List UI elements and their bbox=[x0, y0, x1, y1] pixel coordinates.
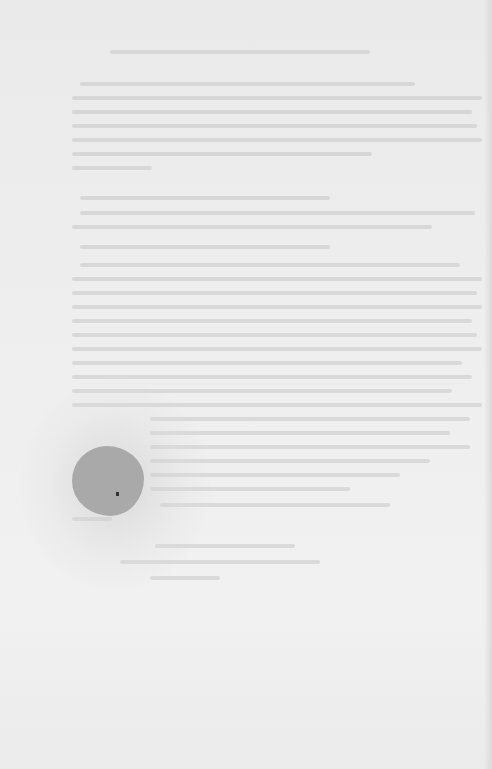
faded-text-line bbox=[110, 50, 370, 54]
faded-text-line bbox=[72, 96, 482, 100]
ink-blot bbox=[72, 446, 144, 516]
faded-text-line bbox=[80, 245, 330, 249]
faded-text-line bbox=[72, 291, 477, 295]
faded-text-line bbox=[72, 152, 372, 156]
faded-text-line bbox=[72, 110, 472, 114]
faded-text-line bbox=[150, 417, 470, 421]
faded-text-line bbox=[72, 225, 432, 229]
faded-text-line bbox=[72, 375, 472, 379]
faded-text-line bbox=[80, 82, 415, 86]
faded-text-line bbox=[72, 166, 152, 170]
faded-text-line bbox=[80, 211, 475, 215]
document-page bbox=[0, 0, 492, 769]
page-edge bbox=[484, 0, 492, 769]
faded-text-line bbox=[72, 277, 482, 281]
faded-text-line bbox=[80, 196, 330, 200]
faded-text-line bbox=[72, 361, 462, 365]
faded-text-line bbox=[72, 305, 482, 309]
faded-text-line bbox=[80, 263, 460, 267]
faded-text-line bbox=[72, 124, 477, 128]
blot-speck bbox=[116, 492, 119, 496]
faded-text-line bbox=[72, 319, 472, 323]
faded-text-line bbox=[72, 333, 477, 337]
faded-text-line bbox=[72, 138, 482, 142]
faded-text-line bbox=[72, 347, 482, 351]
